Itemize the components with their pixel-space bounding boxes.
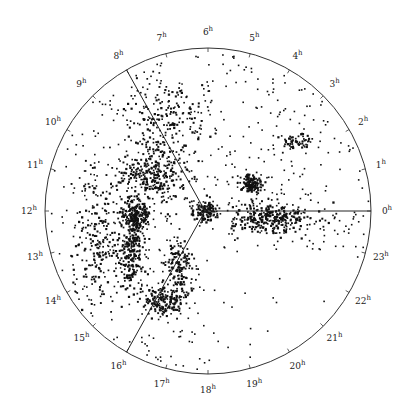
tick-15h [93, 323, 96, 326]
tick-11h [51, 169, 55, 170]
hour-label-4: 4h [292, 49, 303, 61]
16h-line [127, 211, 206, 352]
hour-label-7: 7h [157, 31, 168, 43]
galaxy-points [51, 54, 369, 370]
tick-21h [320, 323, 323, 326]
hour-label-15: 15h [73, 331, 89, 343]
hour-label-22: 22h [355, 294, 371, 306]
tick-23h [362, 252, 366, 253]
tick-22h [346, 291, 349, 293]
tick-2h [346, 130, 349, 132]
tick-17h [166, 365, 167, 369]
hour-label-11: 11h [27, 158, 43, 170]
tick-19h [249, 365, 250, 369]
tick-14h [67, 291, 70, 293]
hour-label-6: 6h [203, 25, 214, 37]
tick-5h [249, 54, 250, 58]
hour-label-12: 12h [21, 204, 37, 216]
hour-label-17: 17h [154, 377, 170, 389]
hour-label-18: 18h [200, 383, 216, 395]
tick-9h [93, 96, 96, 99]
hour-label-21: 21h [327, 331, 343, 343]
tick-3h [320, 96, 323, 99]
hour-label-16: 16h [111, 359, 127, 371]
hour-label-19: 19h [246, 377, 262, 389]
hour-label-8: 8h [113, 49, 124, 61]
tick-4h [288, 70, 290, 73]
hour-label-23: 23h [373, 250, 389, 262]
hour-label-10: 10h [45, 115, 61, 127]
hour-label-13: 13h [27, 250, 43, 262]
hour-label-0: 0h [382, 204, 393, 216]
hour-label-3: 3h [329, 77, 340, 89]
hour-label-2: 2h [358, 115, 369, 127]
tick-13h [51, 252, 55, 253]
hour-label-14: 14h [45, 294, 61, 306]
tick-10h [67, 130, 70, 132]
tick-1h [362, 169, 366, 170]
hour-label-5: 5h [249, 31, 260, 43]
tick-20h [288, 349, 290, 352]
hour-label-1: 1h [376, 158, 387, 170]
hour-label-9: 9h [76, 77, 87, 89]
hour-label-20: 20h [290, 359, 306, 371]
tick-7h [166, 54, 167, 58]
polar-scatter-chart: 0h1h2h3h4h5h6h7h8h9h10h11h12h13h14h15h16… [0, 0, 411, 420]
